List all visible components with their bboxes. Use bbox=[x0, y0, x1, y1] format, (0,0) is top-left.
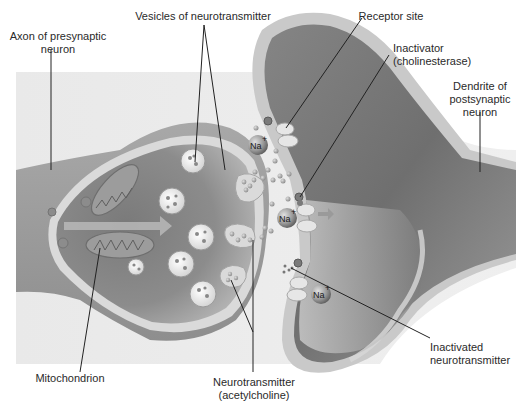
svg-text:+: + bbox=[325, 283, 330, 293]
vesicle bbox=[168, 251, 194, 277]
mitochondrion-lower bbox=[86, 232, 154, 258]
svg-text:Na: Na bbox=[313, 290, 325, 300]
svg-text:Na: Na bbox=[250, 141, 262, 151]
label-axon: Axon of presynaptic neuron bbox=[8, 30, 108, 56]
synapse-diagram: Na + Na + Na + Axon of presynap bbox=[0, 0, 516, 408]
vesicle bbox=[190, 281, 216, 307]
label-inactivator: Inactivator (cholinesterase) bbox=[393, 42, 471, 68]
vesicle bbox=[188, 224, 214, 250]
label-receptor: Receptor site bbox=[356, 10, 426, 23]
label-dendrite: Dendrite of postsynaptic neuron bbox=[445, 80, 515, 119]
svg-text:+: + bbox=[262, 134, 267, 144]
svg-text:+: + bbox=[291, 207, 296, 217]
label-vesicles: Vesicles of neurotransmitter bbox=[128, 10, 278, 23]
svg-text:Na: Na bbox=[279, 214, 291, 224]
label-inactivated: Inactivated neurotransmitter bbox=[430, 341, 510, 367]
vesicle bbox=[181, 149, 205, 173]
vesicle bbox=[159, 188, 185, 214]
label-neurotransmitter: Neurotransmitter (acetylcholine) bbox=[184, 376, 324, 402]
label-mitochondrion: Mitochondrion bbox=[30, 372, 110, 385]
vesicle bbox=[128, 259, 144, 275]
